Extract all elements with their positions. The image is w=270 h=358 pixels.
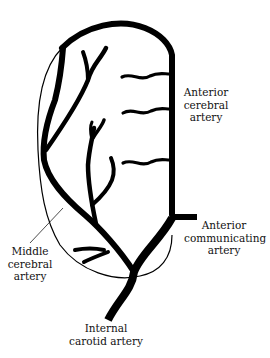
mca-branch-middle [88,128,96,224]
label-line: cerebral [4,258,56,271]
mca-branch-low-1 [75,249,104,251]
label-line: artery [184,244,264,257]
aca-branch-1 [122,74,170,78]
label-line: Internal [66,322,146,335]
internal-carotid-artery [108,218,172,320]
label-anterior-cerebral-artery: Anterior cerebral artery [178,86,234,124]
label-line: artery [178,111,234,124]
label-middle-cerebral-artery: Middle cerebral artery [4,245,56,283]
label-line: Middle [4,245,56,258]
anterior-cerebral-artery [62,24,172,215]
mca-branch-middle-fork2 [91,122,93,140]
label-internal-carotid-artery: Internal carotid artery [66,322,146,347]
mca-branch-upper-fork [83,52,88,80]
label-anterior-communicating-artery: Anterior communicating artery [184,219,264,257]
aca-branch-3 [123,160,170,164]
label-line: artery [4,270,56,283]
label-line: communicating [184,232,264,245]
mca-branch-side [92,158,114,205]
label-line: cerebral [178,99,234,112]
mca-branch-low-2 [84,252,108,262]
label-line: Anterior [178,86,234,99]
label-line: carotid artery [66,335,146,348]
label-line: Anterior [184,219,264,232]
aca-branch-2 [123,109,170,114]
artery-diagram [0,0,270,358]
